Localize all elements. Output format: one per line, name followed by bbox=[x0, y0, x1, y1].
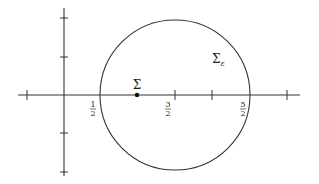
svg-text:5: 5 bbox=[240, 100, 245, 109]
svg-text:2: 2 bbox=[90, 109, 95, 118]
circle-label-main: Σ bbox=[212, 52, 220, 66]
svg-text:3: 3 bbox=[165, 100, 170, 109]
svg-text:1: 1 bbox=[90, 100, 95, 109]
sigma-point bbox=[135, 93, 139, 97]
svg-text:2: 2 bbox=[240, 109, 245, 118]
sigma-point-label: Σ bbox=[133, 78, 141, 92]
fraction-label: 32 bbox=[165, 100, 171, 118]
circle-label: Σε bbox=[212, 52, 225, 68]
circle-label-subscript: ε bbox=[220, 59, 224, 68]
fraction-label: 12 bbox=[90, 100, 96, 118]
svg-text:2: 2 bbox=[165, 109, 170, 118]
tick-labels: 123252 bbox=[90, 90, 246, 118]
diagram-canvas: Σ Σε 123252 bbox=[0, 0, 319, 184]
fraction-label: 52 bbox=[240, 100, 246, 118]
